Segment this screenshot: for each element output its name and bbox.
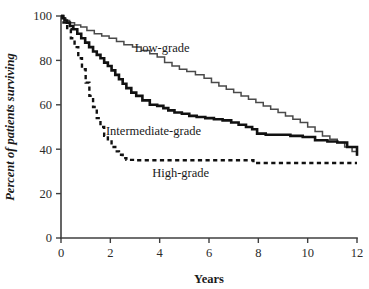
y-tick-label: 80 (40, 54, 53, 68)
x-tick-label: 2 (107, 246, 113, 260)
series-line-high-grade (61, 16, 357, 163)
chart-canvas: 020406080100 024681012 Low-gradeIntermed… (0, 0, 369, 289)
x-tick-label: 6 (206, 246, 212, 260)
x-tick-label: 0 (58, 246, 64, 260)
y-tick-label: 60 (40, 98, 53, 112)
curve-annotations: Low-gradeIntermediate-gradeHigh-grade (106, 41, 210, 180)
y-axis-title: Percent of patients surviving (3, 53, 17, 201)
y-tick-label: 100 (33, 9, 52, 23)
y-axis-ticks: 020406080100 (33, 9, 61, 245)
x-tick-label: 12 (351, 246, 364, 260)
x-tick-label: 8 (255, 246, 261, 260)
curve-label-low-grade: Low-grade (135, 41, 190, 55)
x-axis-title: Years (194, 272, 224, 286)
x-axis-ticks: 024681012 (58, 238, 363, 260)
y-tick-label: 40 (40, 143, 53, 157)
y-tick-label: 0 (46, 231, 52, 245)
series-paths (61, 16, 357, 163)
curve-label-intermediate-grade: Intermediate-grade (106, 124, 202, 138)
x-tick-label: 4 (157, 246, 164, 260)
survival-chart: 020406080100 024681012 Low-gradeIntermed… (0, 0, 369, 289)
y-tick-label: 20 (40, 187, 53, 201)
x-tick-label: 10 (301, 246, 314, 260)
curve-label-high-grade: High-grade (152, 166, 209, 180)
